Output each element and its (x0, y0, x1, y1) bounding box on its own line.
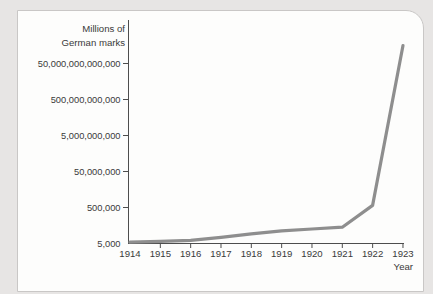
data-line (130, 46, 403, 243)
x-tick-label: 1914 (119, 248, 141, 259)
y-axis-ticks: 50,000,000,000,000500,000,000,0005,000,0… (38, 59, 128, 249)
x-tick-label: 1922 (362, 248, 383, 259)
x-tick-label: 1921 (332, 248, 353, 259)
y-tick-label: 50,000,000,000,000 (38, 59, 121, 69)
y-tick-label: 50,000,000 (74, 167, 121, 177)
x-tick-label: 1918 (241, 248, 262, 259)
x-tick-label: 1923 (392, 248, 413, 259)
y-tick-label: 5,000 (97, 239, 120, 249)
y-axis-title-line2: German marks (62, 37, 126, 48)
data-series (130, 46, 403, 243)
hyperinflation-line-chart: Millions of German marks 50,000,000,000,… (0, 0, 433, 294)
y-tick-label: 500,000 (87, 203, 121, 213)
y-tick-label: 5,000,000,000 (61, 131, 120, 141)
x-tick-label: 1917 (210, 248, 231, 259)
x-axis-label: Year (394, 261, 414, 272)
x-tick-label: 1919 (271, 248, 292, 259)
x-axis-ticks: 1914191519161917191819191920192119221923 (119, 244, 413, 259)
y-tick-label: 500,000,000,000 (51, 95, 121, 105)
x-tick-label: 1916 (180, 248, 201, 259)
y-axis-title-line1: Millions of (82, 23, 125, 34)
x-tick-label: 1920 (301, 248, 322, 259)
x-tick-label: 1915 (150, 248, 171, 259)
